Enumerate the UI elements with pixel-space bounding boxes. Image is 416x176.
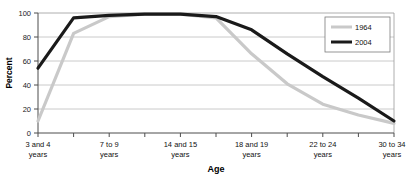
y-tick-label-80: 80 [23, 33, 31, 42]
x-tick-label-5-line1: 30 to 34 [378, 140, 405, 149]
x-tick-label-0-line2: years [29, 150, 48, 159]
y-tick-label-60: 60 [23, 57, 31, 66]
x-tick-marks [38, 133, 394, 137]
x-tick-label-4: 22 to 24 years [309, 140, 336, 159]
legend-label-2004: 2004 [355, 38, 372, 47]
y-axis-title: Percent [4, 57, 14, 88]
x-tick-label-3-line1: 18 and 19 [235, 140, 268, 149]
x-tick-label-1-line1: 7 to 9 [100, 140, 119, 149]
x-tick-label-4-line2: years [314, 150, 333, 159]
y-tick-marks [34, 13, 38, 133]
x-tick-label-2: 14 and 15 years [164, 140, 197, 159]
y-tick-label-0: 0 [27, 129, 31, 138]
y-tick-label-40: 40 [23, 81, 31, 90]
chart-container: 100 80 60 40 20 0 Percent 3 and 4 years [0, 0, 416, 176]
x-tick-label-5: 30 to 34 years [378, 140, 405, 159]
x-tick-label-2-line1: 14 and 15 [164, 140, 197, 149]
x-tick-label-0-line1: 3 and 4 [25, 140, 50, 149]
x-tick-label-3: 18 and 19 years [235, 140, 268, 159]
x-axis-title: Age [207, 164, 224, 174]
x-tick-label-1-line2: years [100, 150, 119, 159]
x-tick-label-3-line2: years [242, 150, 261, 159]
legend-label-1964: 1964 [355, 23, 372, 32]
y-tick-label-20: 20 [23, 105, 31, 114]
x-tick-label-0: 3 and 4 years [25, 140, 50, 159]
x-tick-label-1: 7 to 9 years [100, 140, 119, 159]
x-tick-label-2-line2: years [171, 150, 190, 159]
line-chart: 100 80 60 40 20 0 Percent 3 and 4 years [0, 0, 416, 176]
y-tick-label-100: 100 [18, 9, 31, 18]
x-tick-label-5-line2: years [383, 150, 402, 159]
chart-legend: 1964 2004 [325, 17, 390, 52]
x-tick-label-4-line1: 22 to 24 [309, 140, 336, 149]
